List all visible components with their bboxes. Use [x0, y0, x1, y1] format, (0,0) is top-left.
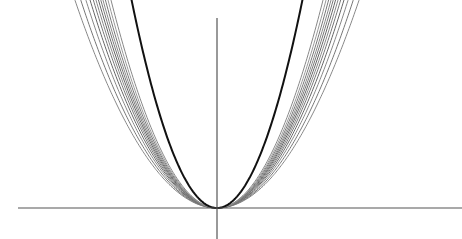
- parabola-curve: [70, 0, 370, 208]
- parabola-curve: [67, 0, 373, 208]
- parabola-curve: [65, 0, 376, 208]
- parabola-curve: [54, 0, 391, 208]
- curve-group: [32, 0, 417, 208]
- parabola-family-chart: [0, 0, 462, 239]
- parabola-curve: [32, 0, 417, 208]
- highlighted-parabola: [115, 0, 375, 208]
- parabola-curve: [63, 0, 379, 208]
